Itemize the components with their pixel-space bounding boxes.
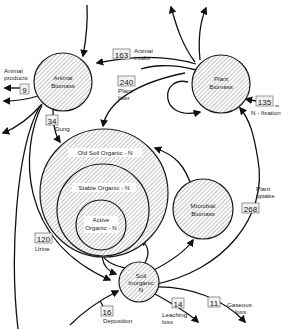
pool-soil-inorganic: Soil Inorganic N (119, 262, 159, 302)
plant-litter-value: 240 (120, 78, 134, 87)
stable-organic-label: Stable Organic - N (79, 184, 130, 191)
n-fixation-label: N - fixation (251, 109, 281, 116)
soil-inorganic-label-2: Inorganic (128, 279, 153, 286)
old-soil-organic-label: Old Soil Organic - N (77, 149, 132, 156)
deposition-value: 16 (103, 308, 112, 317)
flow-label-deposition: 16 Deposition (101, 306, 133, 324)
active-organic-label-1: Active (93, 216, 110, 223)
active-organic-label-2: Organic - N (85, 224, 117, 231)
animal-biomass-label-2: Biomass (51, 82, 75, 89)
plant-uptake-label-1: Plant (256, 185, 270, 192)
flow-animal-intake-2 (141, 66, 196, 70)
flow-label-animal-products: Animal products 9 (4, 67, 29, 95)
flow-animal-out-2 (4, 96, 38, 101)
flow-inorganic-to-microbial (150, 240, 193, 272)
deposition-tick (100, 301, 103, 306)
plant-biomass-label-2: Biomass (209, 83, 233, 90)
nitrogen-cycle-diagram: Old Soil Organic - N Stable Organic - N … (0, 0, 289, 329)
deposition-label: Deposition (103, 317, 133, 324)
gaseous-loss-label-1: Gaseous (227, 301, 252, 308)
microbial-biomass-label-1: Microbial (191, 202, 216, 209)
urine-label: Urine (35, 245, 50, 252)
pool-animal-biomass: Animal Biomass (34, 53, 92, 111)
leaching-loss-label-1: Leaching (162, 311, 188, 318)
soil-inorganic-label-3: N (139, 286, 143, 293)
flow-left-edge (14, 106, 40, 329)
plant-litter-label-2: litter (118, 94, 130, 101)
leaching-loss-label-2: loss (162, 318, 173, 325)
animal-products-label-2: products (4, 74, 28, 81)
pool-plant-biomass: Plant Biomass (192, 55, 250, 113)
animal-intake-label-1: Animal (134, 47, 153, 54)
pool-microbial-biomass: Microbial Biomass (173, 179, 233, 239)
flow-label-dung: 34 Dung (46, 115, 70, 132)
gaseous-loss-value: 11 (210, 299, 219, 308)
plant-uptake-label-2: uptake (256, 192, 275, 199)
flow-label-urine: 120 Urine (35, 233, 52, 252)
plant-biomass-label-1: Plant (214, 75, 228, 82)
plant-uptake-value: 268 (244, 205, 258, 214)
flow-into-animal-top (83, 5, 87, 56)
flow-label-plant-litter: 240 Plant litter (118, 76, 135, 101)
flow-label-plant-uptake: Plant uptake 268 (242, 185, 275, 214)
microbial-biomass-label-2: Biomass (191, 210, 215, 217)
flow-label-animal-intake: 163 Animal intake (113, 47, 153, 61)
n-fixation-value: 135 (258, 98, 272, 107)
flow-label-leaching-loss: 14 Leaching loss (162, 298, 188, 325)
leaching-loss-value: 14 (174, 300, 183, 309)
urine-value: 120 (37, 235, 51, 244)
flow-label-gaseous-loss: 11 Gaseous loss (208, 297, 252, 315)
soil-inorganic-label-1: Soil (136, 272, 146, 279)
flow-label-n-fixation: 135 N - fixation (251, 96, 281, 116)
pool-active-organic: Active Organic - N (76, 200, 126, 250)
flow-plant-out-1 (171, 7, 195, 62)
animal-products-value: 9 (22, 86, 27, 95)
dung-label: Dung (55, 125, 70, 132)
animal-products-label-1: Animal (4, 67, 23, 74)
plant-litter-label-1: Plant (118, 87, 132, 94)
animal-intake-label-2: intake (134, 54, 151, 61)
gaseous-loss-label-2: loss (235, 308, 246, 315)
flow-plant-litter (103, 73, 185, 126)
flow-plant-out-2 (199, 8, 206, 60)
animal-biomass-label-1: Animal (54, 74, 73, 81)
animal-intake-value: 163 (115, 51, 129, 60)
flow-n-fixation (246, 99, 256, 101)
